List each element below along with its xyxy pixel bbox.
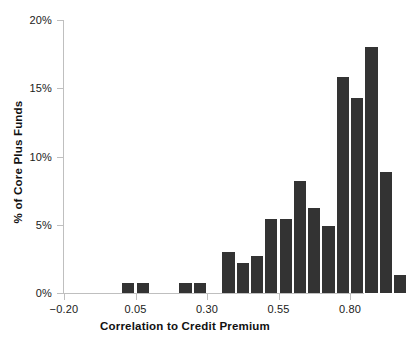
x-axis-tick xyxy=(279,294,280,300)
histogram-bar xyxy=(364,47,378,293)
y-axis-label-container: % of Core Plus Funds xyxy=(0,0,30,344)
y-axis-tick xyxy=(57,157,63,158)
x-axis-tick xyxy=(136,294,137,300)
y-axis-tick-label: 15% xyxy=(29,82,52,94)
x-axis-tick-label: 0.80 xyxy=(339,303,361,315)
histogram-bar xyxy=(293,181,307,293)
x-axis-tick xyxy=(64,294,65,300)
x-axis-tick xyxy=(350,294,351,300)
y-axis-tick-label: 0% xyxy=(36,287,52,299)
y-axis-tick xyxy=(57,293,63,294)
histogram-bar xyxy=(279,219,293,293)
histogram-bar xyxy=(321,226,335,293)
x-axis-label: Correlation to Credit Premium xyxy=(0,320,370,332)
y-axis-label: % of Core Plus Funds xyxy=(12,62,24,262)
x-axis-tick-label: 0.05 xyxy=(124,303,146,315)
histogram-bar xyxy=(121,283,135,293)
histogram-bar xyxy=(178,283,192,293)
histogram-bar xyxy=(221,252,235,293)
histogram-bar xyxy=(264,219,278,293)
histogram-bar xyxy=(379,172,393,293)
x-axis-tick-label: 0.30 xyxy=(196,303,218,315)
y-axis-tick xyxy=(57,20,63,21)
histogram-bar xyxy=(193,283,207,293)
histogram-bars xyxy=(64,20,364,293)
histogram-bar xyxy=(136,283,150,293)
histogram-bar xyxy=(236,263,250,293)
histogram-bar xyxy=(393,275,407,293)
y-axis-tick xyxy=(57,225,63,226)
histogram-bar xyxy=(350,98,364,293)
y-axis-tick xyxy=(57,88,63,89)
x-axis-line xyxy=(63,293,364,294)
x-axis-tick-label: −0.20 xyxy=(50,303,79,315)
y-axis-tick-label: 20% xyxy=(29,14,52,26)
y-axis-tick-label: 5% xyxy=(36,219,52,231)
histogram-bar xyxy=(250,256,264,293)
x-axis-tick xyxy=(207,294,208,300)
histogram-bar xyxy=(336,77,350,293)
y-axis-tick-label: 10% xyxy=(29,151,52,163)
x-axis-tick-label: 0.55 xyxy=(267,303,289,315)
histogram-bar xyxy=(307,208,321,293)
